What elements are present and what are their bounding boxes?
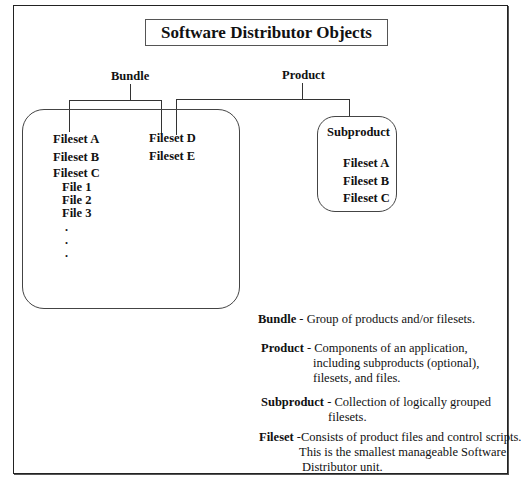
subproduct-fileset-b: Fileset B	[343, 174, 389, 189]
definition-term: Product	[261, 341, 304, 355]
subproduct-fileset-a: Fileset A	[343, 156, 389, 171]
definition-text: Collection of logically grouped	[334, 395, 491, 409]
subproduct-fileset-c: Fileset C	[343, 191, 390, 206]
bundle-file-3: File 3	[62, 206, 92, 221]
bundle-fileset-a: Fileset A	[53, 132, 99, 147]
product-label: Product	[282, 68, 325, 83]
bundle-fileset-b: Fileset B	[53, 150, 99, 165]
ellipsis-dot: .	[65, 246, 68, 261]
product-to-subproduct	[349, 99, 350, 116]
definition-subproduct: Subproduct - Collection of logically gro…	[261, 395, 491, 410]
definition-separator: -	[296, 312, 306, 326]
definition-separator: -	[324, 395, 334, 409]
definition-fileset: Fileset -Consists of product files and c…	[259, 430, 521, 445]
definition-bundle: Bundle - Group of products and/or filese…	[258, 312, 475, 327]
definition-text: Consists of product files and control sc…	[301, 430, 521, 444]
definition-fileset-line3: Distributor unit.	[302, 460, 383, 475]
definition-text: Components of an application,	[314, 341, 467, 355]
bundle-branch	[69, 100, 162, 101]
definition-term: Bundle	[258, 312, 296, 326]
diagram-title: Software Distributor Objects	[145, 19, 388, 46]
definition-term: Subproduct	[261, 395, 324, 409]
definition-separator: -	[294, 430, 301, 444]
definition-term: Fileset	[259, 430, 294, 444]
definition-fileset-line2: This is the smallest manageable Software	[299, 445, 506, 460]
bundle-fileset-c: Fileset C	[53, 166, 100, 181]
bundle-label: Bundle	[111, 69, 149, 84]
definition-separator: -	[304, 341, 314, 355]
definition-subproduct-line2: filesets.	[328, 410, 367, 425]
subproduct-title: Subproduct	[327, 125, 390, 140]
definition-text: Group of products and/or filesets.	[307, 312, 475, 326]
definition-product-line2: including subproducts (optional),	[313, 356, 479, 371]
bundle-fileset-e: Fileset E	[149, 149, 195, 164]
product-branch	[176, 99, 350, 100]
product-stem	[302, 83, 303, 99]
bundle-stem	[130, 84, 131, 100]
bundle-fileset-d: Fileset D	[149, 131, 196, 146]
definition-product: Product - Components of an application,	[261, 341, 468, 356]
definition-product-line3: filesets, and files.	[313, 371, 400, 386]
